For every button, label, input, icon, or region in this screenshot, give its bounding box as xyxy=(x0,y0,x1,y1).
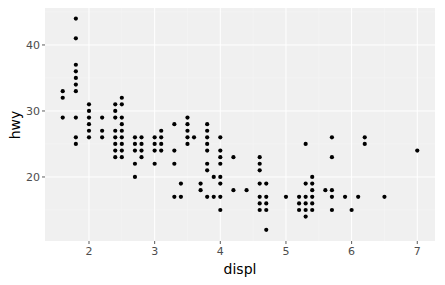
data-point xyxy=(179,195,183,199)
data-point xyxy=(120,122,124,126)
data-point xyxy=(258,162,262,166)
data-point xyxy=(205,168,209,172)
data-point xyxy=(330,155,334,159)
data-point xyxy=(218,175,222,179)
data-point xyxy=(218,135,222,139)
data-point xyxy=(350,208,354,212)
data-point xyxy=(264,195,268,199)
data-point xyxy=(87,115,91,119)
data-point xyxy=(205,142,209,146)
data-point xyxy=(304,208,308,212)
data-point xyxy=(185,135,189,139)
data-point xyxy=(304,214,308,218)
data-point xyxy=(87,102,91,106)
plot-panel xyxy=(45,8,435,241)
data-point xyxy=(61,96,65,100)
data-point xyxy=(330,208,334,212)
scatter-chart: 234567 203040 displ hwy xyxy=(0,0,445,285)
data-point xyxy=(205,135,209,139)
data-point xyxy=(133,162,137,166)
data-point xyxy=(74,82,78,86)
data-point xyxy=(264,208,268,212)
data-point xyxy=(231,155,235,159)
data-point xyxy=(304,142,308,146)
data-point xyxy=(74,135,78,139)
data-point xyxy=(113,155,117,159)
data-point xyxy=(185,122,189,126)
data-point xyxy=(87,109,91,113)
data-point xyxy=(133,142,137,146)
x-tick-label: 6 xyxy=(348,245,355,258)
data-point xyxy=(120,129,124,133)
data-point xyxy=(330,188,334,192)
x-tick-label: 3 xyxy=(151,245,158,258)
y-tick-label: 40 xyxy=(26,39,40,52)
data-point xyxy=(113,129,117,133)
data-point xyxy=(258,155,262,159)
data-point xyxy=(139,155,143,159)
data-point xyxy=(218,181,222,185)
y-axis-title: hwy xyxy=(7,111,23,140)
data-point xyxy=(218,148,222,152)
data-point xyxy=(304,181,308,185)
data-point xyxy=(185,115,189,119)
data-point xyxy=(153,142,157,146)
data-point xyxy=(113,109,117,113)
data-point xyxy=(120,102,124,106)
data-point xyxy=(258,208,262,212)
data-point xyxy=(87,135,91,139)
data-point xyxy=(205,122,209,126)
data-point xyxy=(153,135,157,139)
data-point xyxy=(133,148,137,152)
y-tick-label: 20 xyxy=(26,171,40,184)
data-point xyxy=(133,135,137,139)
data-point xyxy=(74,36,78,40)
data-point xyxy=(310,175,314,179)
data-point xyxy=(218,155,222,159)
data-point xyxy=(120,142,124,146)
data-point xyxy=(120,96,124,100)
data-point xyxy=(304,195,308,199)
data-point xyxy=(258,195,262,199)
data-point xyxy=(218,162,222,166)
data-point xyxy=(113,102,117,106)
data-point xyxy=(74,142,78,146)
data-point xyxy=(120,155,124,159)
data-point xyxy=(100,115,104,119)
data-point xyxy=(363,142,367,146)
data-point xyxy=(343,195,347,199)
data-point xyxy=(382,195,386,199)
data-point xyxy=(153,148,157,152)
data-point xyxy=(172,122,176,126)
data-point xyxy=(205,148,209,152)
data-point xyxy=(113,135,117,139)
data-point xyxy=(120,148,124,152)
data-point xyxy=(172,162,176,166)
data-point xyxy=(139,148,143,152)
data-point xyxy=(231,188,235,192)
y-axis: 203040 xyxy=(26,39,45,184)
data-point xyxy=(74,16,78,20)
data-point xyxy=(159,142,163,146)
x-tick-label: 4 xyxy=(217,245,224,258)
data-point xyxy=(172,195,176,199)
data-point xyxy=(133,175,137,179)
y-tick-label: 30 xyxy=(26,105,40,118)
data-point xyxy=(199,188,203,192)
data-point xyxy=(304,201,308,205)
data-point xyxy=(258,201,262,205)
data-point xyxy=(264,228,268,232)
data-point xyxy=(310,181,314,185)
data-point xyxy=(218,195,222,199)
data-point xyxy=(159,135,163,139)
data-point xyxy=(172,148,176,152)
data-point xyxy=(284,195,288,199)
data-point xyxy=(199,181,203,185)
data-point xyxy=(120,135,124,139)
data-point xyxy=(218,208,222,212)
data-point xyxy=(74,115,78,119)
data-point xyxy=(356,195,360,199)
data-point xyxy=(205,195,209,199)
data-point xyxy=(159,129,163,133)
data-point xyxy=(310,195,314,199)
